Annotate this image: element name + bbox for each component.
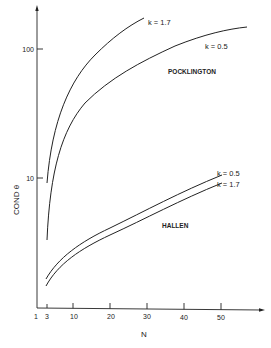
label-hallen-k05: k = 0.5 <box>217 169 240 178</box>
x-tick-label-3: 3 <box>45 313 49 320</box>
curve-pocklington-k17 <box>47 18 144 183</box>
label-pocklington-k05: k = 0.5 <box>205 42 228 51</box>
x-tick-label-20: 20 <box>107 313 115 320</box>
x-axis-title: N <box>141 330 147 339</box>
curve-pocklington-k05 <box>47 27 247 240</box>
x-axis <box>37 308 262 310</box>
x-tick-label-40: 40 <box>180 314 188 321</box>
conditioning-chart: 100 10 1 3 10 20 30 40 50 N COND θ k = 1… <box>0 0 271 348</box>
y-axis-arrow-icon <box>35 5 38 11</box>
y-axis-title: COND θ <box>12 184 21 215</box>
label-hallen-group: HALLEN <box>162 222 189 229</box>
x-tick-label-50: 50 <box>217 314 225 321</box>
label-pocklington-group: POCKLINGTON <box>168 68 216 75</box>
label-hallen-k17: k = 1.7 <box>217 180 240 189</box>
x-tick-label-10: 10 <box>70 313 78 320</box>
curves <box>46 18 247 286</box>
label-pocklington-k17: k = 1.7 <box>148 18 171 27</box>
x-tick-label-1: 1 <box>34 313 38 320</box>
y-tick-label-10: 10 <box>26 175 34 182</box>
y-tick-label-100: 100 <box>22 46 34 53</box>
curve-hallen-k05 <box>46 175 222 279</box>
x-axis-arrow-icon <box>259 308 265 311</box>
curve-hallen-k17 <box>46 183 222 286</box>
axes <box>35 5 265 312</box>
x-tick-label-30: 30 <box>143 313 151 320</box>
